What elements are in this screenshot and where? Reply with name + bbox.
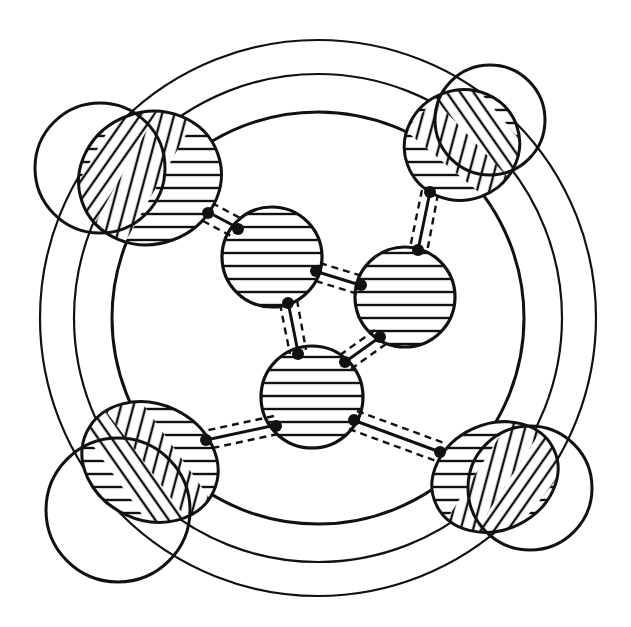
molecular-ring-diagram bbox=[0, 0, 631, 627]
node-center-bottom bbox=[261, 346, 363, 448]
bond-topright-lobe-to-node-right bbox=[410, 190, 438, 252]
diagram-canvas: Patent-style line drawing: three concent… bbox=[0, 0, 631, 627]
bond-center-to-bottomright-lobe bbox=[349, 411, 444, 461]
node-upper-left bbox=[222, 207, 322, 309]
lobes bbox=[35, 65, 592, 582]
lobe-bottom-left bbox=[46, 380, 238, 582]
lobe-top-right bbox=[389, 65, 545, 217]
node-right bbox=[355, 244, 455, 347]
